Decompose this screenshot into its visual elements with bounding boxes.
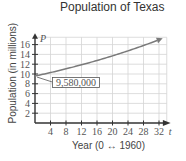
chart-plot-area: 48121620242832246810121416Pt9,580,000 (0, 0, 186, 161)
y-tick-label: 4 (25, 98, 30, 109)
x-variable-label: t (169, 126, 172, 137)
population-curve (35, 41, 157, 77)
y-axis-arrow-icon (32, 33, 38, 38)
y-tick-label: 14 (20, 49, 30, 60)
x-tick-label: 20 (108, 126, 118, 137)
x-tick-label: 4 (48, 126, 53, 137)
x-tick-label: 8 (64, 126, 69, 137)
x-tick-label: 12 (77, 126, 87, 137)
y-tick-label: 16 (20, 39, 30, 50)
x-tick-label: 24 (123, 126, 133, 137)
annotation-label: 9,580,000 (56, 77, 96, 88)
x-tick-label: 16 (92, 126, 102, 137)
y-tick-label: 10 (20, 69, 30, 80)
y-tick-label: 2 (25, 108, 30, 119)
y-variable-label: P (39, 33, 46, 44)
y-tick-label: 12 (20, 59, 30, 70)
y-tick-label: 6 (25, 88, 30, 99)
y-tick-label: 8 (25, 78, 30, 89)
x-tick-label: 28 (139, 126, 149, 137)
x-tick-label: 32 (154, 126, 164, 137)
